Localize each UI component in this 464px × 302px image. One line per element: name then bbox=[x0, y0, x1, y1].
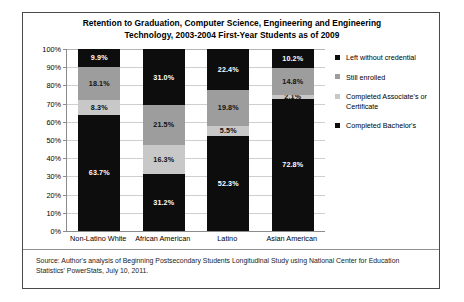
bar-segment-label: 5.5% bbox=[220, 127, 237, 134]
legend-swatch-icon bbox=[335, 74, 340, 79]
x-tick-label: Latino bbox=[217, 234, 237, 243]
y-tick-label: 40% bbox=[27, 154, 61, 163]
bar-group[interactable]: 72.8%2.1%14.8%10.2% bbox=[272, 49, 314, 231]
plot-area: 0%10%20%30%40%50%60%70%80%90%100% 63.7%8… bbox=[66, 49, 325, 232]
bar-segment[interactable]: 9.9% bbox=[78, 49, 120, 67]
x-tick-label: African American bbox=[135, 234, 190, 243]
bar-segment[interactable]: 8.3% bbox=[78, 100, 120, 115]
bar-segment[interactable]: 18.1% bbox=[78, 67, 120, 100]
y-tick-label: 70% bbox=[27, 99, 61, 108]
chart-figure-frame: Retention to Graduation, Computer Scienc… bbox=[22, 12, 440, 289]
x-tick-label: Asian American bbox=[266, 234, 317, 243]
legend-item[interactable]: Completed Associate's or Certificate bbox=[335, 92, 435, 110]
chart-legend: Left without credentialStill enrolledCom… bbox=[335, 53, 435, 141]
bar-segment-label: 10.2% bbox=[282, 55, 303, 62]
y-tick-label: 0% bbox=[27, 227, 61, 236]
bar-segment-label: 22.4% bbox=[218, 66, 239, 73]
bar-segment-label: 21.5% bbox=[153, 121, 174, 128]
y-tick-label: 10% bbox=[27, 208, 61, 217]
bar-segment[interactable]: 22.4% bbox=[207, 49, 249, 90]
bar-segment[interactable]: 5.5% bbox=[207, 126, 249, 136]
bar-segment[interactable]: 21.5% bbox=[143, 105, 185, 144]
bar-group[interactable]: 52.3%5.5%19.8%22.4% bbox=[207, 49, 249, 231]
legend-item-label: Completed Bachelor's bbox=[346, 121, 416, 130]
chart-title-line-1: Retention to Graduation, Computer Scienc… bbox=[37, 18, 427, 30]
y-tick-mark bbox=[63, 231, 67, 232]
bar-group[interactable]: 63.7%8.3%18.1%9.9% bbox=[78, 49, 120, 231]
bar-segment-label: 72.8% bbox=[282, 161, 303, 168]
source-divider bbox=[23, 249, 439, 250]
bar-segment-label: 31.0% bbox=[153, 74, 174, 81]
y-tick-label: 30% bbox=[27, 172, 61, 181]
legend-item-label: Completed Associate's or Certificate bbox=[346, 92, 427, 110]
bar-segment[interactable]: 14.8% bbox=[272, 68, 314, 95]
x-axis-labels: Non-Latino WhiteAfrican AmericanLatinoAs… bbox=[66, 234, 324, 248]
x-tick-label: Non-Latino White bbox=[70, 234, 126, 243]
y-tick-label: 90% bbox=[27, 63, 61, 72]
bar-segment[interactable]: 31.2% bbox=[143, 174, 185, 231]
y-tick-label: 80% bbox=[27, 81, 61, 90]
legend-swatch-icon bbox=[335, 123, 340, 128]
y-tick-label: 100% bbox=[27, 45, 61, 54]
bar-segment[interactable]: 52.3% bbox=[207, 136, 249, 231]
bar-segment[interactable]: 10.2% bbox=[272, 49, 314, 68]
y-tick-label: 50% bbox=[27, 136, 61, 145]
bar-stack: 52.3%5.5%19.8%22.4% bbox=[207, 49, 249, 231]
source-note: Source: Author's analysis of Beginning P… bbox=[36, 256, 428, 275]
legend-item-label: Left without credential bbox=[346, 53, 416, 62]
y-tick-label: 60% bbox=[27, 117, 61, 126]
bar-segment-label: 63.7% bbox=[89, 169, 110, 176]
bar-segment[interactable]: 63.7% bbox=[78, 115, 120, 231]
legend-item[interactable]: Left without credential bbox=[335, 53, 435, 62]
bar-segment[interactable]: 19.8% bbox=[207, 90, 249, 126]
legend-item[interactable]: Still enrolled bbox=[335, 73, 435, 82]
bar-segment-label: 19.8% bbox=[218, 104, 239, 111]
bar-segment[interactable]: 2.1% bbox=[272, 95, 314, 99]
bars-layer: 63.7%8.3%18.1%9.9%31.2%16.3%21.5%31.0%52… bbox=[67, 49, 325, 231]
y-tick-label: 20% bbox=[27, 190, 61, 199]
legend-swatch-icon bbox=[335, 55, 340, 60]
bar-segment-label: 31.2% bbox=[153, 199, 174, 206]
bar-group[interactable]: 31.2%16.3%21.5%31.0% bbox=[143, 49, 185, 231]
bar-segment-label: 18.1% bbox=[89, 80, 110, 87]
bar-segment-label: 52.3% bbox=[218, 180, 239, 187]
legend-swatch-icon bbox=[335, 94, 340, 99]
bar-segment-label: 8.3% bbox=[91, 104, 108, 111]
bar-segment[interactable]: 16.3% bbox=[143, 145, 185, 175]
bar-stack: 63.7%8.3%18.1%9.9% bbox=[78, 49, 120, 231]
chart-title-line-2: Technology, 2003-2004 First-Year Student… bbox=[37, 30, 427, 42]
bar-segment[interactable]: 31.0% bbox=[143, 49, 185, 105]
chart-title: Retention to Graduation, Computer Scienc… bbox=[37, 18, 427, 41]
bar-segment-label: 14.8% bbox=[282, 78, 303, 85]
legend-item-label: Still enrolled bbox=[346, 73, 385, 82]
bar-segment-label: 16.3% bbox=[153, 156, 174, 163]
bar-segment[interactable]: 72.8% bbox=[272, 99, 314, 231]
bar-stack: 31.2%16.3%21.5%31.0% bbox=[143, 49, 185, 231]
bar-stack: 72.8%2.1%14.8%10.2% bbox=[272, 49, 314, 231]
bar-segment-label: 9.9% bbox=[91, 54, 108, 61]
bar-segment-label: 2.1% bbox=[284, 95, 301, 99]
legend-item[interactable]: Completed Bachelor's bbox=[335, 121, 435, 130]
